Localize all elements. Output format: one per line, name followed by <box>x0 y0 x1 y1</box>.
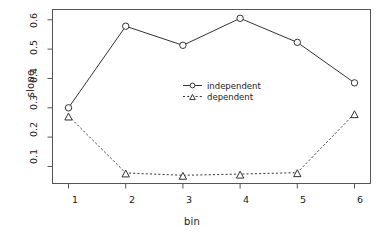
data-point-independent-2 <box>123 23 129 29</box>
series-line-independent <box>69 18 355 108</box>
series-line-dependent <box>69 114 355 176</box>
series-markers-dependent <box>65 111 358 179</box>
data-point-dependent-1 <box>65 113 72 120</box>
plot-frame <box>53 10 371 184</box>
legend-keys <box>183 83 202 99</box>
data-point-dependent-4 <box>236 171 243 178</box>
plot-svg <box>0 0 384 237</box>
data-point-independent-1 <box>65 105 71 111</box>
legend-marker-dependent <box>190 94 196 99</box>
series-path-dependent <box>69 114 355 176</box>
data-point-independent-4 <box>237 15 243 21</box>
series-markers-independent <box>65 15 357 111</box>
chart-container: slope bin 0.6 0.5 0.4 0.3 0.2 0.1 1 2 3 … <box>0 0 384 237</box>
data-point-independent-5 <box>294 39 300 45</box>
series-path-independent <box>69 18 355 108</box>
y-axis-ticks <box>48 20 53 167</box>
data-point-dependent-3 <box>179 172 186 179</box>
data-point-independent-6 <box>351 80 357 86</box>
x-axis-ticks <box>69 184 355 189</box>
data-point-dependent-6 <box>351 111 358 118</box>
data-point-independent-3 <box>180 42 186 48</box>
legend-marker-independent <box>190 83 195 88</box>
